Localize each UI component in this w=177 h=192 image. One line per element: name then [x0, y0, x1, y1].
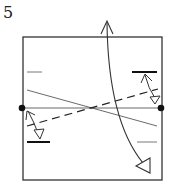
left-edge-dot: [19, 105, 26, 112]
right-edge-dot: [158, 105, 165, 112]
fold-diagram: [0, 0, 177, 192]
large-curved-fold-arrow: [101, 21, 150, 173]
